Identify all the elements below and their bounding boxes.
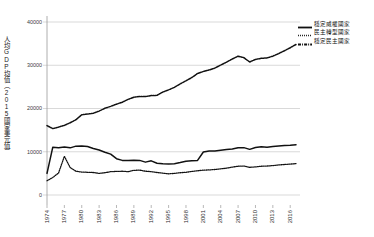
x-tick-label: 2004 — [217, 210, 223, 223]
x-tick-label: 1983 — [96, 210, 102, 223]
x-tick-label: 1998 — [183, 210, 189, 223]
x-tick-label: 2007 — [235, 210, 241, 223]
series-line-2 — [47, 156, 296, 180]
chart-container: 人均GDP均值（2015國家美元值） 010000200003000040000… — [0, 0, 374, 237]
x-tick-label: 2013 — [269, 210, 275, 223]
x-tick-label: 2001 — [200, 210, 206, 223]
x-tick-label: 1995 — [165, 210, 171, 223]
legend-label: 穩定民主國家 — [314, 37, 351, 45]
x-tick-label: 1974 — [44, 210, 50, 223]
y-tick-label: 0 — [12, 192, 42, 198]
x-tick-label: 1992 — [148, 210, 154, 223]
legend-label: 民主轉型國家 — [314, 28, 351, 36]
y-tick-label: 10000 — [12, 149, 42, 155]
series-line-1 — [47, 145, 296, 174]
series-line-3 — [47, 44, 296, 128]
chart-legend: 穩定威權國家民主轉型國家穩定民主國家 — [298, 20, 374, 46]
x-tick-label: 1977 — [61, 210, 67, 223]
y-tick-label: 30000 — [12, 62, 42, 68]
y-tick-label: 20000 — [12, 105, 42, 111]
legend-label: 穩定威權國家 — [314, 20, 351, 28]
x-tick-label: 2010 — [252, 210, 258, 223]
x-tick-label: 1980 — [78, 210, 84, 223]
x-tick-label: 1989 — [130, 210, 136, 223]
x-tick-label: 2016 — [287, 210, 293, 223]
x-tick-label: 1986 — [113, 210, 119, 223]
legend-item-1[interactable]: 穩定威權國家 — [298, 20, 374, 27]
y-tick-label: 40000 — [12, 19, 42, 25]
